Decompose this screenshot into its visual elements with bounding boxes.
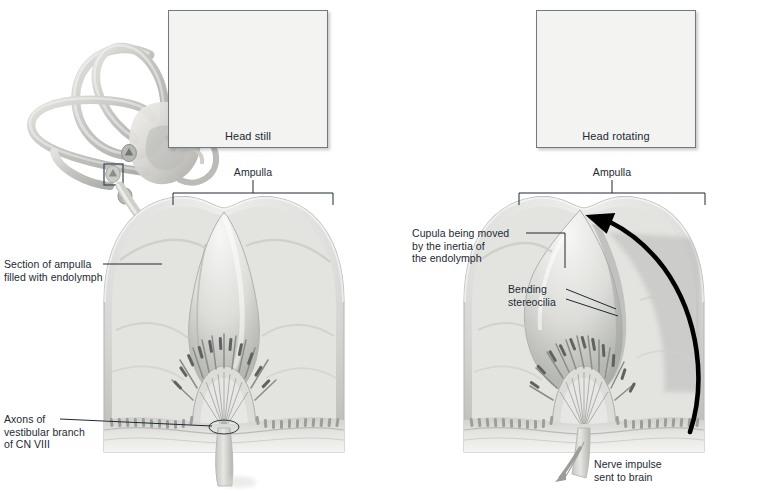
vestibular-nerve-trunk bbox=[572, 428, 590, 478]
zoom-pointer-arrow bbox=[118, 185, 190, 262]
magnifier-box bbox=[104, 164, 123, 185]
nerve-impulse-arrow bbox=[555, 448, 580, 482]
cupula-moved-label: Cupula being moved by the inertia of the… bbox=[412, 227, 532, 265]
head-rotating-caption: Head rotating bbox=[537, 130, 695, 142]
leader-lines bbox=[60, 180, 705, 426]
ampulla-bulge-highlighted bbox=[106, 166, 120, 183]
ampulla-label-left: Ampulla bbox=[208, 166, 298, 179]
bending-stereocilia-label: Bending stereocilia bbox=[508, 283, 574, 308]
endolymph-flow-arrow bbox=[585, 213, 698, 432]
axons-label: Axons of vestibular branch of CN VIII bbox=[4, 413, 114, 451]
vestibular-nerve-trunk bbox=[216, 428, 233, 486]
ampulla-bulge bbox=[118, 188, 132, 204]
head-rotating-photo: Head rotating bbox=[536, 10, 696, 148]
nerve-impulse-label: Nerve impulse sent to brain bbox=[594, 458, 698, 483]
ampulla-bulge bbox=[122, 144, 137, 161]
head-still-photo: Head still bbox=[168, 10, 328, 148]
section-of-ampulla-label: Section of ampulla filled with endolymph bbox=[4, 258, 124, 283]
ampulla-cross-section-left bbox=[104, 197, 344, 488]
head-still-caption: Head still bbox=[169, 130, 327, 142]
axon-convergence-marker bbox=[209, 420, 239, 434]
ampulla-label-right: Ampulla bbox=[567, 166, 657, 179]
figure-canvas: Head still Head rotating Ampulla Ampulla… bbox=[0, 0, 775, 493]
